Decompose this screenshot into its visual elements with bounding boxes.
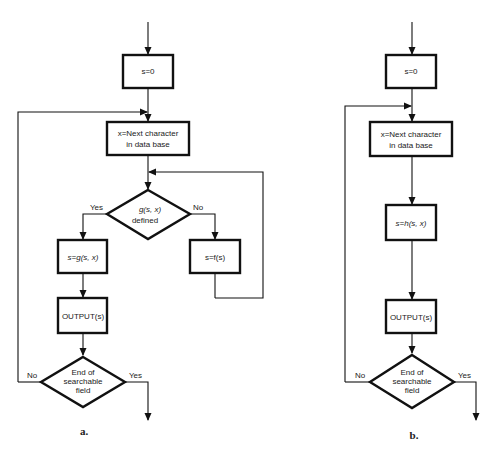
no-arrow [190, 214, 215, 239]
exit-arrow [454, 382, 476, 420]
decision-line2: searchable [392, 377, 432, 386]
decision2-line1: End of [71, 368, 95, 377]
next-char-line1: x=Next character [118, 129, 179, 138]
next-char-line2: in data base [389, 141, 433, 150]
decision1-line2: defined [132, 216, 158, 225]
caption-a: a. [80, 425, 89, 437]
decision-line3: field [405, 386, 420, 395]
decision1-line1: g(s, x) [139, 205, 162, 214]
output-label: OUTPUT(s) [390, 313, 433, 322]
init-label: s=0 [141, 67, 155, 76]
flowchart-b: s=0 x=Next character in data base s=h(s,… [345, 22, 476, 441]
flowchart-canvas: s=0 x=Next character in data base g(s, x… [0, 0, 495, 451]
output-label: OUTPUT(s) [62, 312, 105, 321]
next-char-line1: x=Next character [381, 130, 442, 139]
flowchart-a: s=0 x=Next character in data base g(s, x… [18, 22, 263, 437]
failure-label: s=f(s) [205, 253, 226, 262]
caption-b: b. [410, 429, 419, 441]
next-char-box [107, 122, 189, 155]
yes2-label: Yes [129, 371, 142, 380]
goto-label: s=g(s, x) [68, 253, 99, 262]
yes-arrow [83, 214, 107, 239]
no2-label: No [27, 371, 38, 380]
next-char-box [370, 122, 452, 156]
yes-label: Yes [90, 203, 103, 212]
decision-g-defined [107, 190, 190, 239]
yes-label: Yes [458, 371, 471, 380]
transition-label: s=h(s, x) [396, 219, 427, 228]
no-label: No [193, 203, 204, 212]
next-char-line2: in data base [126, 140, 170, 149]
exit-arrow [125, 382, 148, 420]
decision2-line3: field [76, 386, 91, 395]
decision-line1: End of [400, 368, 424, 377]
no-label: No [355, 371, 366, 380]
failure-loop-arrow [149, 172, 263, 298]
init-label: s=0 [404, 67, 418, 76]
decision2-line2: searchable [63, 377, 103, 386]
